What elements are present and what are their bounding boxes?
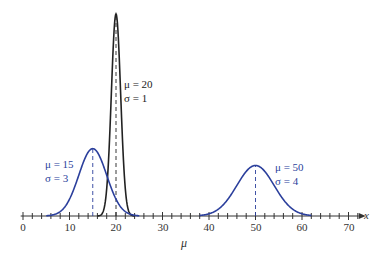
x-axis-name: x	[364, 209, 369, 221]
tick-label-20: 20	[111, 221, 122, 233]
series-mu50-sigma-label: σ = 4	[275, 175, 298, 187]
normal-curves-plot	[0, 0, 377, 258]
series-mu50-mu-label: μ = 50	[275, 161, 304, 173]
series-mu15-sigma-label: σ = 3	[45, 172, 68, 184]
tick-label-40: 40	[204, 221, 215, 233]
tick-label-70: 70	[344, 221, 355, 233]
tick-label-50: 50	[251, 221, 262, 233]
tick-label-60: 60	[297, 221, 308, 233]
tick-label-10: 10	[65, 221, 76, 233]
series-mu20-mu-label: μ = 20	[124, 78, 153, 90]
series-mu15-mu-label: μ = 15	[45, 158, 74, 170]
tick-label-30: 30	[158, 221, 169, 233]
series-mu20-sigma-label: σ = 1	[124, 92, 147, 104]
tick-label-0: 0	[20, 221, 26, 233]
x-axis-label: μ	[181, 236, 187, 251]
